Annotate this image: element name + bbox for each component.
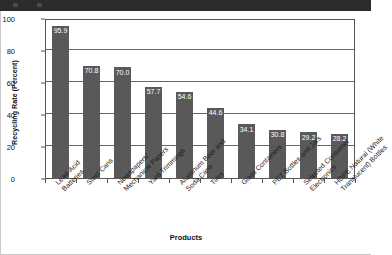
bar-column: 95.9 xyxy=(52,26,68,179)
y-axis-tick-mark xyxy=(41,83,45,84)
bar-column: 70.0 xyxy=(114,67,130,179)
x-axis-tick-mark xyxy=(169,179,170,183)
bar-chart-figure: Recycling Rate (Percent) 95.970.870.057.… xyxy=(1,11,371,254)
bar-value-label: 30.8 xyxy=(269,131,285,139)
bar-value-label: 57.7 xyxy=(145,88,161,96)
y-axis-tick-mark xyxy=(41,51,45,52)
bar: 95.9 xyxy=(52,26,68,179)
x-axis-tick-mark xyxy=(45,179,46,183)
x-axis-tick-mark xyxy=(200,179,201,183)
y-axis-tick-mark xyxy=(41,115,45,116)
y-axis-tick-label: 60 xyxy=(0,79,15,88)
x-axis-tick-mark xyxy=(231,179,232,183)
bar-column: 54.6 xyxy=(176,92,192,179)
x-axis-tick-mark xyxy=(293,179,294,183)
y-axis-tick-label: 0 xyxy=(0,175,15,184)
x-axis-tick-mark xyxy=(76,179,77,183)
bar: 70.0 xyxy=(114,67,130,179)
bar-value-label: 70.8 xyxy=(83,67,99,75)
x-axis-tick-mark xyxy=(355,179,356,183)
bar: 54.6 xyxy=(176,92,192,179)
y-axis-tick-mark xyxy=(41,147,45,148)
bar-column: 70.8 xyxy=(83,66,99,179)
bar-value-label: 54.6 xyxy=(176,93,192,101)
bar-value-label: 44.6 xyxy=(207,109,223,117)
bar: 70.8 xyxy=(83,66,99,179)
x-axis-tick-mark xyxy=(107,179,108,183)
y-axis-tick-label: 100 xyxy=(0,15,15,24)
bar-value-label: 34.1 xyxy=(238,126,254,134)
chrome-dot-icon xyxy=(37,3,42,7)
x-axis-tick-mark xyxy=(262,179,263,183)
bar-value-label: 95.9 xyxy=(52,27,68,35)
x-axis-tick-mark xyxy=(138,179,139,183)
bar-value-label: 70.0 xyxy=(114,69,130,77)
x-axis-title: Products xyxy=(1,233,371,242)
x-axis-category-labels: Lead-AcidBatteriesSteel CansNewspapers/M… xyxy=(45,181,355,241)
y-axis-tick-label: 40 xyxy=(0,111,15,120)
chrome-dot-icon xyxy=(13,3,18,7)
x-axis-tick-mark xyxy=(324,179,325,183)
y-axis-tick-mark xyxy=(41,19,45,20)
document-page: Recycling Rate (Percent) 95.970.870.057.… xyxy=(0,11,371,255)
y-axis-tick-label: 20 xyxy=(0,143,15,152)
window-chrome-strip xyxy=(0,0,371,11)
y-axis-tick-label: 80 xyxy=(0,47,15,56)
